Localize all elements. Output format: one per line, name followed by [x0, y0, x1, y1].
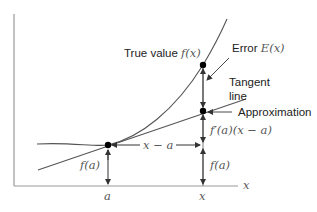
function-curve [37, 19, 227, 145]
linear-approximation-diagram: x x − a True value f(x) Error E(x) Tange… [0, 0, 317, 212]
tick-label-x: x [199, 189, 206, 203]
tangent-line-label-2: line [229, 90, 247, 102]
derivative-term-label: f′(a)(x − a) [209, 123, 272, 137]
error-pointer [207, 58, 229, 80]
true-value-label: True value f(x) [124, 46, 201, 60]
fa-right-label: f(a) [209, 158, 230, 172]
approximation-label: Approximation [238, 106, 312, 118]
fa-left-label: f(a) [79, 158, 100, 172]
tangent-line-label-1: Tangent [229, 76, 271, 88]
error-label: Error E(x) [232, 41, 285, 55]
true-value-point [200, 62, 206, 68]
approximation-point [200, 108, 206, 114]
tick-label-a: a [104, 189, 111, 203]
tangent-point [105, 142, 111, 148]
x-axis-label: x [243, 178, 250, 192]
x-minus-a-label: x − a [143, 138, 173, 152]
